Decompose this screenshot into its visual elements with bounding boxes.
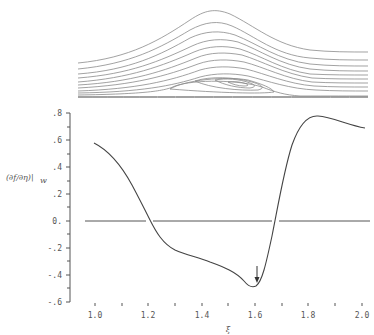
wall-shear-curve xyxy=(94,116,365,287)
x-tick-label: 1.2 xyxy=(141,311,156,320)
x-tick-label: 2.0 xyxy=(355,311,370,320)
y-axis: .8 .6 .4 .2 0. -.2 -.4 -.6 (∂f/∂η)| w xyxy=(6,109,70,307)
x-tick-label: 1.8 xyxy=(301,311,316,320)
y-tick-label: 0. xyxy=(52,217,62,226)
y-tick-label: .6 xyxy=(52,136,62,145)
streamline xyxy=(78,53,368,85)
x-tick-label: 1.4 xyxy=(195,311,210,320)
x-axis-label: ξ xyxy=(226,325,231,334)
y-tick-label: .4 xyxy=(52,163,62,172)
figure: .8 .6 .4 .2 0. -.2 -.4 -.6 (∂f/∂η)| w 1.… xyxy=(0,0,374,335)
y-tick-label: -.4 xyxy=(48,271,63,280)
y-tick-label: .2 xyxy=(52,190,62,199)
x-tick-label: 1.6 xyxy=(248,311,263,320)
x-axis: 1.0 1.2 1.4 1.6 1.8 2.0 ξ xyxy=(88,303,370,334)
streamline xyxy=(78,11,368,63)
y-axis-label: (∂f/∂η)| xyxy=(6,173,34,182)
streamline-panel xyxy=(78,11,368,98)
y-tick-label: -.2 xyxy=(48,244,63,253)
minimum-arrow-icon xyxy=(255,266,260,283)
y-axis-label-subscript: w xyxy=(40,176,47,185)
streamline xyxy=(78,23,368,69)
y-tick-label: -.6 xyxy=(48,298,63,307)
y-tick-label: .8 xyxy=(52,109,62,118)
x-tick-label: 1.0 xyxy=(88,311,103,320)
streamline xyxy=(78,47,368,82)
